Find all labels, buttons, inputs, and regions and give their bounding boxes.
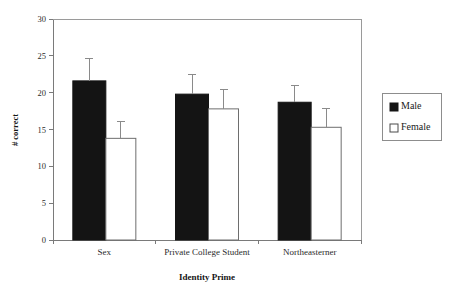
y-tick-label: 25 xyxy=(38,51,47,61)
bar-female xyxy=(209,109,239,240)
bar-male xyxy=(176,94,209,240)
bar-male xyxy=(278,102,311,240)
legend: MaleFemale xyxy=(382,93,441,140)
y-tick-label: 5 xyxy=(42,198,46,208)
legend-swatch-male xyxy=(390,103,398,111)
y-tick-label: 30 xyxy=(38,14,47,24)
chart-figure: 051015202530 SexPrivate College StudentN… xyxy=(0,0,459,296)
legend-label: Male xyxy=(401,100,422,111)
y-tick-label: 20 xyxy=(38,88,47,98)
bar-chart: 051015202530 SexPrivate College StudentN… xyxy=(0,0,459,296)
category-label: Sex xyxy=(98,247,112,257)
bar-male xyxy=(73,81,106,240)
x-axis-title: Identity Prime xyxy=(179,272,235,282)
y-tick-label: 10 xyxy=(38,161,47,171)
bar-female xyxy=(311,127,341,240)
category-label: Northeasterner xyxy=(283,247,336,257)
y-tick-label: 0 xyxy=(42,235,46,245)
y-axis-title: # correct xyxy=(10,114,20,146)
bar-female xyxy=(106,138,136,240)
category-label: Private College Student xyxy=(164,247,250,257)
legend-swatch-female xyxy=(390,124,398,132)
legend-label: Female xyxy=(401,121,431,132)
y-tick-label: 15 xyxy=(38,125,47,135)
